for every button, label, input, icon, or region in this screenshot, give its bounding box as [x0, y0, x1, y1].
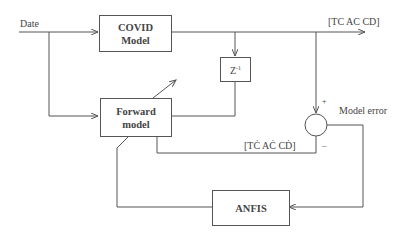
delay-exponent: -1 [236, 65, 241, 71]
forward-block-line2: model [122, 118, 149, 131]
forward-block-line1: Forward [116, 105, 156, 118]
plus-sign: + [322, 97, 327, 106]
covid-block-line2: Model [121, 34, 150, 47]
anfis-block: ANFIS [212, 190, 290, 226]
delay-block: Z-1 [220, 57, 251, 82]
covid-block-line1: COVID [118, 21, 153, 34]
covid-model-block: COVID Model [99, 15, 172, 52]
date-input-label: Date [20, 18, 39, 29]
estimate-label: [TĊ AĊ CḊ] [244, 140, 296, 151]
output-label: [TC AC CD] [328, 16, 380, 27]
connector-lines [0, 0, 405, 237]
model-error-label: Model error [339, 105, 387, 116]
forward-model-block: Forward model [100, 98, 172, 137]
minus-sign: – [322, 140, 327, 150]
anfis-label: ANFIS [235, 202, 267, 215]
